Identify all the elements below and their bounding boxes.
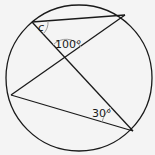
circle [6, 5, 152, 151]
chord-ad [32, 22, 133, 131]
angle-c-label: c [38, 21, 44, 34]
circle-diagram: c 100° 30° [0, 0, 155, 155]
chord-ab [32, 15, 125, 22]
angle-30-label: 30° [92, 107, 112, 120]
chord-cd [11, 95, 133, 131]
angle-100-label: 100° [55, 38, 82, 51]
chord-bc [11, 15, 125, 95]
diagram-canvas: c 100° 30° [0, 0, 155, 155]
